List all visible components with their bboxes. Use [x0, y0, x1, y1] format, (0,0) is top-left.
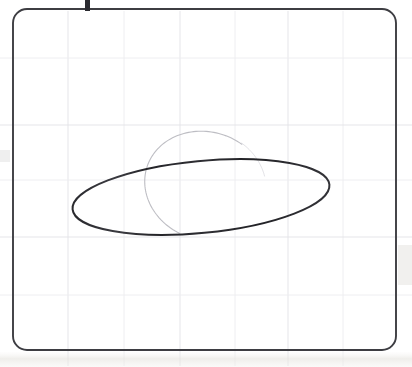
drawing-surface	[0, 0, 412, 367]
scanned-drawing-canvas: A scanned photo of a hand-drawn dark ell…	[0, 0, 412, 367]
scanner-shadow-band	[0, 352, 412, 367]
paper-background	[0, 0, 412, 367]
right-edge-smudge-artifact	[398, 245, 412, 285]
left-edge-smudge-artifact	[0, 150, 10, 162]
cropped-pen-mark-icon	[85, 0, 90, 11]
